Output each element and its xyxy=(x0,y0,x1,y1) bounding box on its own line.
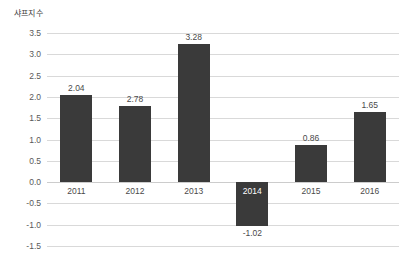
bar-value-label: 0.86 xyxy=(303,133,320,143)
y-axis-tick-label: 2.5 xyxy=(29,71,41,81)
x-axis-category-label: 2011 xyxy=(67,186,85,196)
bars-layer: 2.0420112.7820123.282013-1.0220140.86201… xyxy=(47,33,399,246)
bar-group: 1.652016 xyxy=(340,33,399,246)
plot-area: 3.53.02.52.01.51.00.50.0-0.5-1.0-1.5 2.0… xyxy=(47,33,399,246)
bar[interactable] xyxy=(295,145,327,182)
bar-value-label: 3.28 xyxy=(185,32,202,42)
bar-group: 0.862015 xyxy=(282,33,341,246)
y-axis-tick-label: -0.5 xyxy=(26,198,41,208)
chart-axis-title: 샤프지수 xyxy=(14,7,43,18)
bar-value-label: 2.04 xyxy=(68,83,85,93)
y-axis-tick-label: 3.5 xyxy=(29,28,41,38)
bar-group: 2.042011 xyxy=(47,33,106,246)
bar-group: 3.282013 xyxy=(164,33,223,246)
sharpe-ratio-bar-chart: 샤프지수 3.53.02.52.01.51.00.50.0-0.5-1.0-1.… xyxy=(0,0,413,262)
bar[interactable] xyxy=(354,112,386,182)
bar-group: -1.022014 xyxy=(223,33,282,246)
y-axis-tick-label: -1.5 xyxy=(26,241,41,251)
bar[interactable] xyxy=(178,44,210,182)
x-axis-category-label: 2012 xyxy=(126,186,145,196)
y-axis-tick-label: -1.0 xyxy=(26,220,41,230)
bar-value-label: 1.65 xyxy=(361,100,378,110)
y-axis-tick-label: 0.5 xyxy=(29,156,41,166)
x-axis-category-label: 2016 xyxy=(360,186,379,196)
bar-value-label: -1.02 xyxy=(243,228,262,238)
bar-group: 2.782012 xyxy=(106,33,165,246)
y-axis-tick-label: 1.5 xyxy=(29,113,41,123)
bar-value-label: 2.78 xyxy=(127,94,144,104)
x-axis-category-label: 2014 xyxy=(243,186,262,196)
y-axis-tick-label: 1.0 xyxy=(29,135,41,145)
x-axis-category-label: 2015 xyxy=(302,186,321,196)
bar[interactable] xyxy=(119,106,151,182)
x-axis-category-label: 2013 xyxy=(184,186,203,196)
y-axis-tick-label: 3.0 xyxy=(29,49,41,59)
y-axis-tick-label: 2.0 xyxy=(29,92,41,102)
y-axis-tick-label: 0.0 xyxy=(29,177,41,187)
bar[interactable] xyxy=(60,95,92,182)
gridline: -1.5 xyxy=(47,246,399,247)
